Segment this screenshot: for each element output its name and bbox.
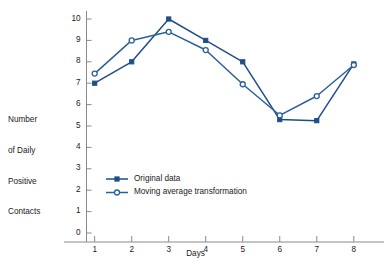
y-axis-title-line-2: of Daily [8, 146, 40, 156]
x-tick-label: 4 [197, 245, 215, 254]
legend-label-moving-average: Moving average transformation [134, 187, 247, 196]
x-tick-label: 2 [123, 245, 141, 254]
legend-markers [106, 177, 128, 195]
x-axis-title: Days [0, 249, 391, 259]
data-point-marker [351, 63, 356, 68]
y-tick-label: 0 [63, 228, 81, 237]
y-tick-label: 8 [63, 56, 81, 65]
x-tick-label: 8 [345, 245, 363, 254]
data-point-marker [93, 81, 97, 85]
axis-lines [64, 11, 384, 242]
data-point-marker [204, 38, 208, 42]
x-tick-label: 3 [160, 245, 178, 254]
data-point-marker [277, 113, 282, 118]
series-line-0 [95, 19, 354, 121]
y-tick-label: 3 [63, 163, 81, 172]
data-point-marker [129, 38, 134, 43]
data-point-marker [130, 60, 134, 64]
data-point-marker [167, 17, 171, 21]
x-tick-label: 7 [308, 245, 326, 254]
data-point-marker [241, 60, 245, 64]
y-tick-label: 10 [63, 14, 81, 23]
x-tick-label: 6 [271, 245, 289, 254]
legend-swatch-marker-0 [115, 177, 119, 181]
y-axis-title-line-3: Positive [8, 177, 40, 187]
y-axis-title: Number of Daily Positive Contacts [8, 95, 40, 238]
data-point-marker [240, 82, 245, 87]
series-line-1 [95, 32, 354, 115]
data-point-marker [203, 48, 208, 53]
y-tick-label: 5 [63, 121, 81, 130]
tick-marks [87, 19, 354, 242]
data-point-marker [315, 119, 319, 123]
legend-label-original-data: Original data [134, 174, 180, 183]
data-point-marker [166, 29, 171, 34]
legend-swatch-marker-1 [115, 190, 120, 195]
y-tick-label: 9 [63, 35, 81, 44]
y-tick-label: 6 [63, 99, 81, 108]
y-tick-label: 2 [63, 185, 81, 194]
y-tick-label: 1 [63, 206, 81, 215]
data-point-marker [314, 94, 319, 99]
x-tick-label: 1 [86, 245, 104, 254]
data-point-marker [92, 71, 97, 76]
y-axis-title-line-4: Contacts [8, 207, 40, 217]
y-tick-label: 4 [63, 142, 81, 151]
y-tick-label: 7 [63, 78, 81, 87]
x-tick-label: 5 [234, 245, 252, 254]
y-axis-title-line-1: Number [8, 115, 40, 125]
data-series-layer [92, 17, 356, 123]
line-chart-figure: Number of Daily Positive Contacts Days 0… [0, 0, 391, 275]
plot-area [0, 0, 391, 275]
